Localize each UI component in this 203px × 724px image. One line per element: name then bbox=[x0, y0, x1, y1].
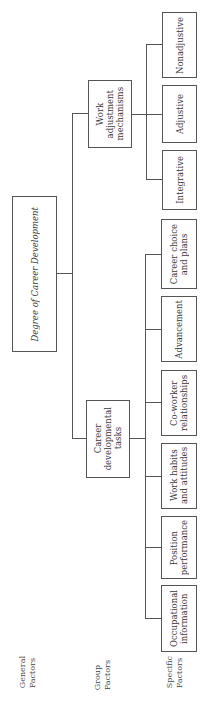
group-label: Career developmental tasks bbox=[93, 407, 123, 470]
connector bbox=[146, 114, 162, 115]
specific-label: Integrative bbox=[175, 156, 185, 204]
specific-label: Adjustive bbox=[175, 94, 185, 134]
specific-label: Occupational information bbox=[169, 590, 189, 647]
specific-label: Work habits and attitudes bbox=[169, 447, 189, 504]
specific-label: Position performance bbox=[169, 520, 189, 575]
specific-label: Advancement bbox=[174, 300, 184, 359]
specific-box-advancement: Advancement bbox=[161, 296, 197, 362]
connector bbox=[145, 547, 161, 548]
connector bbox=[132, 114, 146, 115]
connector bbox=[57, 273, 72, 274]
connector bbox=[145, 254, 161, 255]
specific-box-occupational-information: Occupational information bbox=[161, 585, 197, 652]
specific-box-career-choice: Career choice and plans bbox=[161, 219, 197, 289]
specific-box-integrative: Integrative bbox=[162, 150, 197, 210]
connector bbox=[145, 329, 161, 330]
level-label-specific: Specific Factors bbox=[165, 656, 185, 688]
group-box-career-tasks: Career developmental tasks bbox=[86, 400, 130, 478]
connector bbox=[130, 438, 145, 439]
group-label: Work adjustment mechanisms bbox=[95, 87, 125, 140]
connector bbox=[72, 438, 86, 439]
connector bbox=[146, 44, 162, 45]
connector bbox=[146, 179, 162, 180]
level-label-group: Group Factors bbox=[93, 660, 113, 690]
connector bbox=[145, 476, 161, 477]
connector bbox=[145, 618, 161, 619]
connector bbox=[72, 113, 73, 439]
specific-box-nonadjustive: Nonadjustive bbox=[162, 12, 197, 78]
specific-box-co-worker: Co-worker relationships bbox=[161, 370, 197, 436]
connector bbox=[146, 44, 147, 180]
level-label-general: General Factors bbox=[18, 656, 38, 688]
specific-label: Co-worker relationships bbox=[169, 375, 189, 431]
specific-box-work-habits: Work habits and attitudes bbox=[161, 443, 197, 509]
connector bbox=[145, 254, 146, 619]
specific-box-adjustive: Adjustive bbox=[162, 85, 197, 143]
root-box: Degree of Career Development bbox=[12, 196, 57, 352]
group-box-work-adjustment: Work adjustment mechanisms bbox=[88, 80, 132, 148]
root-label: Degree of Career Development bbox=[30, 207, 40, 341]
specific-label: Nonadjustive bbox=[175, 17, 185, 74]
specific-box-position-performance: Position performance bbox=[161, 516, 197, 579]
specific-label: Career choice and plans bbox=[169, 224, 189, 284]
connector bbox=[72, 113, 88, 114]
connector bbox=[145, 402, 161, 403]
